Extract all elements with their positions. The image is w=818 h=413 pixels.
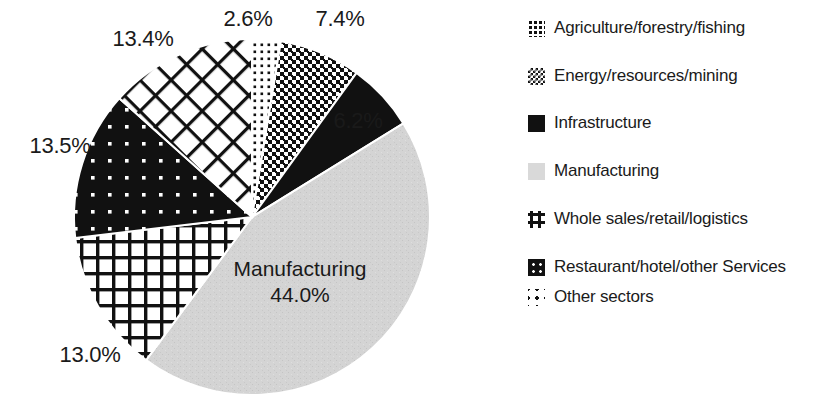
legend-item-label: Whole sales/retail/logistics — [554, 209, 748, 230]
legend-item-label: Manufacturing — [554, 161, 659, 182]
slice-label-restaurant: 13.5% — [30, 133, 91, 159]
legend-swatch-agriculture-icon — [528, 20, 545, 37]
legend-item-label: Infrastructure — [554, 113, 651, 134]
legend-item-energy-resources-mining[interactable]: Energy/resources/mining — [528, 66, 808, 87]
legend-item-whole-sales-retail-logistics[interactable]: Whole sales/retail/logistics — [528, 209, 808, 230]
legend-item-infrastructure[interactable]: Infrastructure — [528, 113, 808, 134]
slice-label-energy: 7.4% — [316, 6, 365, 32]
legend-swatch-manufacturing-icon — [528, 163, 545, 180]
slice-label-infrastructure: 6.2% — [334, 108, 383, 134]
legend-swatch-wholesales-icon — [528, 211, 545, 228]
legend-item-label: Energy/resources/mining — [554, 66, 737, 87]
legend-item-restaurant-hotel-other-services[interactable]: Restaurant/hotel/other Services — [528, 257, 808, 278]
legend-item-label: Restaurant/hotel/other Services — [554, 257, 786, 278]
legend-swatch-infrastructure-icon — [528, 115, 545, 132]
slice-label-agriculture: 2.6% — [224, 6, 273, 32]
slice-label-wholesales: 13.0% — [60, 342, 121, 368]
legend-item-agriculture-forestry-fishing[interactable]: Agriculture/forestry/fishing — [528, 18, 808, 39]
legend-swatch-other-icon — [528, 289, 545, 306]
manufacturing-slice-name: Manufacturing — [233, 256, 366, 282]
legend-swatch-energy-icon — [528, 68, 545, 85]
pie-chart-figure: Manufacturing 44.0% 2.6% 7.4% 6.2% 13.0%… — [0, 0, 818, 413]
legend-item-label: Agriculture/forestry/fishing — [554, 18, 745, 39]
manufacturing-slice-value: 44.0% — [233, 282, 366, 308]
slice-label-other-sectors: 13.4% — [113, 26, 174, 52]
chart-legend: Agriculture/forestry/fishingEnergy/resou… — [528, 18, 808, 335]
manufacturing-slice-label: Manufacturing 44.0% — [233, 256, 366, 309]
legend-item-other-sectors[interactable]: Other sectors — [528, 287, 808, 308]
legend-item-manufacturing[interactable]: Manufacturing — [528, 161, 808, 182]
legend-swatch-restaurant-icon — [528, 259, 545, 276]
legend-item-label: Other sectors — [554, 287, 653, 308]
